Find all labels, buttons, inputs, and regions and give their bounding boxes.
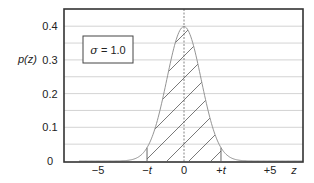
hatch-line	[233, 1, 314, 161]
x-tick-label: −5	[92, 164, 105, 176]
hatch-line	[277, 1, 314, 161]
x-tick-label: 0	[181, 164, 187, 176]
y-tick-label: 0.2	[42, 88, 57, 100]
y-tick-labels: 00.10.20.30.4	[42, 20, 57, 167]
hatch-line	[189, 1, 314, 161]
x-axis-label: z	[290, 164, 297, 176]
y-axis-label: p(z)	[17, 53, 37, 65]
svg-text:σ = 1.0: σ = 1.0	[90, 44, 125, 57]
y-tick-label: 0	[47, 155, 53, 167]
x-tick-label: −t	[142, 164, 152, 176]
sigma-value: = 1.0	[98, 44, 126, 56]
hatch-line	[13, 1, 173, 161]
hatch-line	[167, 1, 314, 161]
hatch-line	[57, 1, 217, 161]
hatch-line	[211, 1, 314, 161]
hatch-line	[79, 1, 239, 161]
hatch-line	[299, 1, 314, 161]
sigma-annotation: σ = 1.0	[83, 36, 133, 63]
plot-frame	[64, 9, 303, 162]
x-tick-label: +t	[216, 164, 226, 176]
y-tick-label: 0.4	[42, 20, 57, 32]
y-tick-label: 0.3	[42, 54, 57, 66]
x-tick-label: +5	[264, 164, 277, 176]
hatch-line	[101, 1, 261, 161]
hatch-line	[255, 1, 314, 161]
x-tick-labels: −5−t0+t+5	[92, 164, 277, 176]
hatch-line	[123, 1, 283, 161]
hatch-line	[35, 1, 195, 161]
y-tick-label: 0.1	[42, 121, 57, 133]
hatch-line	[0, 1, 151, 161]
normal-distribution-chart: σ = 1.0 p(z) z 00.10.20.30.4 −5−t0+t+5	[0, 0, 314, 183]
hatch-line	[145, 1, 305, 161]
